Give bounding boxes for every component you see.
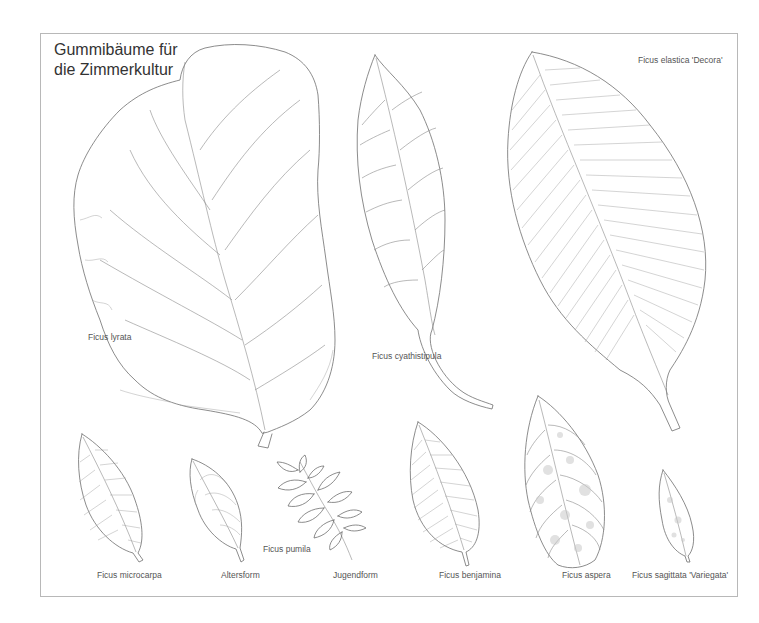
narrow-leaf-icon	[659, 470, 694, 562]
fiddle-leaf-icon	[74, 45, 335, 448]
label-jugendform: Jugendform	[333, 570, 378, 580]
label-ficus-sagittata: Ficus sagittata 'Variegata'	[632, 570, 728, 580]
label-ficus-aspera: Ficus aspera	[562, 570, 611, 580]
illustrations	[0, 0, 759, 623]
label-ficus-lyrata: Ficus lyrata	[88, 332, 131, 342]
variegated-leaf-icon	[525, 396, 605, 568]
rubber-leaf-icon	[508, 52, 706, 431]
label-ficus-benjamina: Ficus benjamina	[439, 570, 501, 580]
label-altersform: Altersform	[221, 570, 260, 580]
oval-leaf-icon	[79, 434, 143, 562]
label-ficus-pumila: Ficus pumila	[263, 544, 311, 554]
label-ficus-cyathistipula: Ficus cyathistipula	[372, 351, 441, 361]
plate-title: Gummibäume für die Zimmerkultur	[54, 40, 178, 80]
small-leaf-icon	[190, 459, 244, 562]
label-ficus-elastica: Ficus elastica 'Decora'	[638, 55, 723, 65]
pointed-leaf-icon	[410, 422, 479, 566]
label-ficus-microcarpa: Ficus microcarpa	[97, 570, 162, 580]
